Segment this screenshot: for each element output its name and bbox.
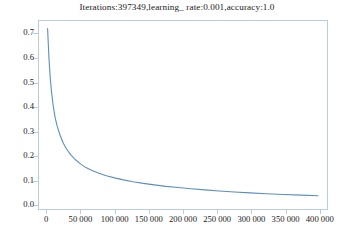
x-axis-tick-label: 50 000 [69,214,93,224]
x-axis-tick-label: 100 000 [101,214,129,224]
x-axis-tick-label: 150 000 [135,214,163,224]
x-axis-tick-label: 400 000 [306,214,334,224]
x-axis-tick-label: 350 000 [272,214,300,224]
chart-figure: Iterations:397349,learning_ rate:0.001,a… [0,0,354,246]
x-axis-tick-label: 300 000 [237,214,265,224]
x-axis-tick-label: 250 000 [203,214,231,224]
x-axis-tick-label: 200 000 [169,214,197,224]
x-axis-tick-group: 050 000100 000150 000200 000250 000300 0… [0,0,354,246]
x-axis-tick-label: 0 [44,214,48,224]
